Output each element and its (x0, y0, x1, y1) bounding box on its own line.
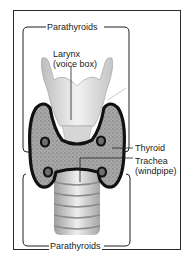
label-thyroid: Thyroid (134, 143, 166, 153)
thyroid-illustration (0, 0, 193, 271)
label-larynx: Larynx (52, 49, 81, 59)
diagram-canvas: Parathyroids Larynx (voice box) Thyroid … (0, 0, 193, 271)
label-larynx-voice-box: (voice box) (52, 59, 98, 69)
label-trachea-windpipe: (windpipe) (134, 166, 178, 176)
parathyroid-lower-right (98, 168, 106, 177)
trachea (54, 170, 100, 235)
label-parathyroids-bottom: Parathyroids (49, 241, 102, 251)
parathyroid-upper-left (41, 138, 49, 147)
parathyroid-upper-right (97, 137, 105, 146)
label-parathyroids-top: Parathyroids (46, 22, 99, 32)
parathyroid-lower-left (44, 168, 52, 177)
label-trachea: Trachea (134, 156, 169, 166)
